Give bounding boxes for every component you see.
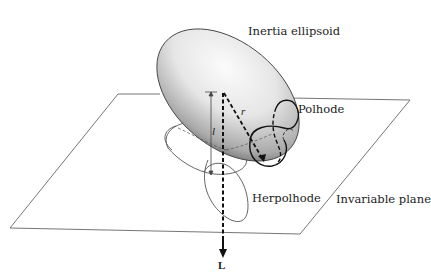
distance-label: l xyxy=(212,126,215,137)
angular-momentum-label: L xyxy=(218,260,225,271)
inertia-ellipsoid-label: Inertia ellipsoid xyxy=(248,26,340,38)
herpolhode-label: Herpolhode xyxy=(252,193,321,205)
radius-vector-label: r xyxy=(241,106,245,117)
invariable-plane-label: Invariable plane xyxy=(336,194,431,206)
polhode-label: Polhode xyxy=(298,104,344,116)
